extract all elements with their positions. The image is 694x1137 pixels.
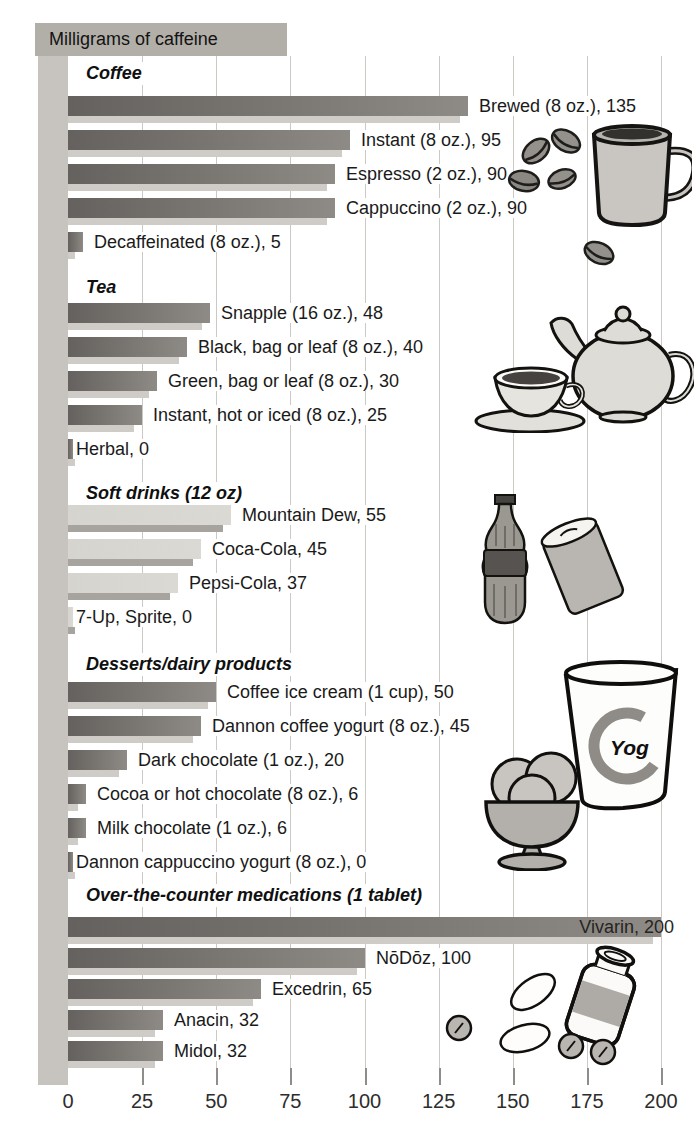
tea-illustration — [473, 283, 694, 433]
axis-tick — [439, 1068, 441, 1085]
coffee-illustration — [502, 113, 692, 273]
cola-bottle-icon — [483, 495, 527, 623]
ice-cream-sundae-icon — [486, 753, 578, 870]
axis-tick — [513, 1068, 515, 1085]
axis-tick-label: 25 — [131, 1090, 153, 1113]
axis-tick — [142, 1068, 144, 1085]
axis-tick — [587, 1068, 589, 1085]
medication-illustration — [433, 940, 648, 1070]
coffee-mug-icon — [594, 126, 692, 225]
soda-can-icon — [538, 513, 625, 616]
axis-tick — [661, 1068, 663, 1085]
axis-tick — [290, 1068, 292, 1085]
axis-tick-label: 175 — [570, 1090, 603, 1113]
yogurt-cup-icon: Yog — [566, 662, 676, 808]
dessert-illustration: Yog — [470, 656, 694, 871]
axis-tick-label: 75 — [279, 1090, 301, 1113]
axis-tick-label: 125 — [422, 1090, 455, 1113]
caffeine-chart-figure: Milligrams of caffeine Coffee Brewed (8 … — [0, 0, 694, 1137]
yogurt-cup-label: Yog — [610, 736, 649, 759]
axis-tick-label: 50 — [205, 1090, 227, 1113]
axis-tick — [216, 1068, 218, 1085]
axis-tick — [365, 1068, 367, 1085]
axis-tick-label: 0 — [62, 1090, 73, 1113]
pill-bottle-icon — [563, 942, 644, 1049]
axis-tick-label: 100 — [348, 1090, 381, 1113]
teacup-icon — [476, 368, 584, 432]
soft-drink-illustration — [452, 490, 627, 630]
axis-tick-label: 150 — [496, 1090, 529, 1113]
axis-tick-label: 200 — [644, 1090, 677, 1113]
